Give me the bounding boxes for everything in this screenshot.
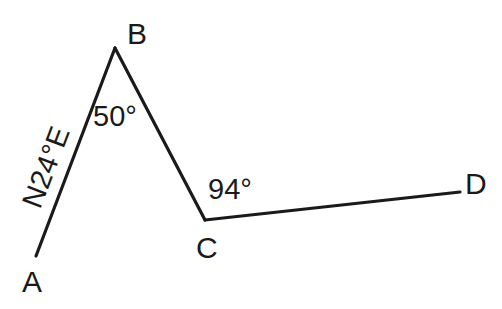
angle-label-c: 94°	[208, 173, 252, 205]
point-label-b: B	[127, 17, 147, 50]
point-label-c: C	[196, 231, 218, 264]
segment-bc	[115, 48, 205, 220]
angle-label-b: 50°	[93, 100, 137, 132]
bearing-label-ab: N24°E	[16, 122, 76, 212]
point-label-d: D	[465, 167, 487, 200]
traverse-diagram: A B C D N24°E 50° 94°	[0, 0, 502, 309]
point-label-a: A	[22, 265, 42, 298]
